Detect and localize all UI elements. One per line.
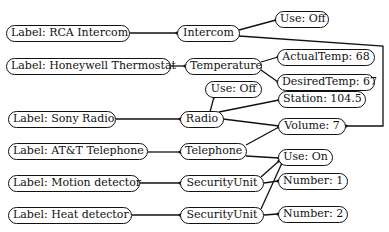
node-label-att: Label: AT&T Telephone	[8, 143, 148, 160]
edge-intercom-use_off_1	[239, 20, 276, 30]
node-security1: SecurityUnit	[180, 175, 264, 192]
edge-radio-volume	[223, 119, 279, 126]
node-label-honeywell: Label: Honeywell Thermostat	[6, 58, 171, 75]
node-security2: SecurityUnit	[180, 207, 264, 224]
node-radio: Radio	[180, 111, 224, 128]
edge-temperature-actualtemp	[261, 57, 278, 62]
edge-temperature-desiredtemp	[261, 70, 278, 82]
node-number1: Number: 1	[278, 173, 348, 190]
node-telephone: Telephone	[180, 143, 247, 160]
semantic-network-diagram: Label: RCA IntercomIntercomUse: OffLabel…	[0, 0, 389, 232]
node-label-sony: Label: Sony Radio	[8, 111, 116, 128]
node-temperature: Temperature	[185, 58, 262, 75]
edge-telephone-volume	[246, 127, 279, 145]
edge-radio-station	[219, 100, 279, 112]
node-label-heat: Label: Heat detector	[8, 207, 132, 224]
edge-security1-number1	[264, 181, 278, 183]
edge-security2-number2	[264, 214, 278, 215]
node-use-off-1: Use: Off	[275, 11, 329, 28]
node-intercom: Intercom	[177, 25, 240, 42]
node-volume: Volume: 7	[278, 118, 346, 135]
node-desiredtemp: DesiredTemp: 67	[277, 74, 375, 91]
node-station: Station: 104.5	[278, 91, 366, 108]
node-use-off-2: Use: Off	[205, 81, 262, 98]
edge-radio-use_off_2	[210, 97, 214, 112]
node-actualtemp: ActualTemp: 68	[277, 49, 375, 66]
node-label-motion: Label: Motion detector	[8, 175, 140, 192]
edge-telephone-use_on	[246, 156, 279, 158]
node-use-on: Use: On	[278, 149, 333, 166]
node-label-rca: Label: RCA Intercom	[6, 25, 130, 42]
node-number2: Number: 2	[278, 206, 348, 223]
